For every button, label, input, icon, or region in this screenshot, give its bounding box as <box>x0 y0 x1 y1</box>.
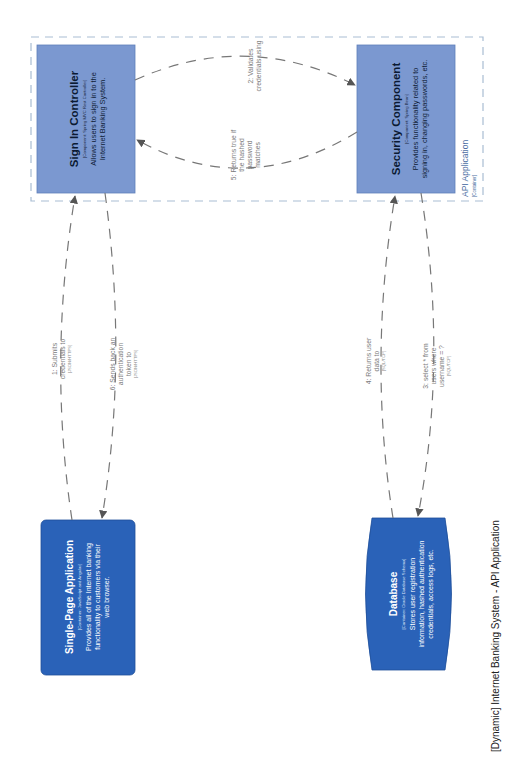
svg-text:[JSON/HTTPS]: [JSON/HTTPS] <box>133 350 138 378</box>
svg-text:[JSON/HTTPS]: [JSON/HTTPS] <box>67 345 72 373</box>
security-component-title: Security Component <box>390 63 402 176</box>
security-component-description-1: Provides functionality related to <box>411 68 420 171</box>
security-component-technology: [Component: Spring Bean] <box>404 94 409 143</box>
svg-text:authentication: authentication <box>117 343 124 386</box>
svg-text:data to: data to <box>373 350 380 371</box>
svg-text:username = ?: username = ? <box>438 345 445 387</box>
database-node[interactable]: Database [Container: Oracle Database Sch… <box>366 518 452 670</box>
database-description-1: Stores user registration <box>409 558 417 630</box>
spa-description-2: functionality to customers via their <box>94 544 102 650</box>
svg-text:[SQL/TCP]: [SQL/TCP] <box>381 351 386 371</box>
edge-2-validates-credentials <box>135 56 355 85</box>
dynamic-diagram: API Application [Container] Sign In Cont… <box>0 0 515 761</box>
svg-text:credentials using: credentials using <box>255 40 263 91</box>
svg-text:2: Validates: 2: Validates <box>247 48 254 84</box>
boundary-label: API Application <box>460 140 470 197</box>
single-page-application-node[interactable]: Single-Page Application [Container: Java… <box>41 520 135 675</box>
label-3: 3: select * from users where username = … <box>422 343 451 389</box>
svg-text:matches: matches <box>254 142 261 168</box>
svg-text:3: select * from: 3: select * from <box>422 343 429 389</box>
svg-text:6: Sends back an: 6: Sends back an <box>109 338 116 391</box>
sign-in-controller-title: Sign In Controller <box>68 70 80 167</box>
sign-in-controller-node[interactable]: Sign In Controller [Component: Spring MV… <box>37 45 135 193</box>
label-4: 4: Returns user data to [SQL/TCP] <box>365 337 386 384</box>
svg-text:5: Returns true if: 5: Returns true if <box>230 130 237 180</box>
database-description-2: information, hashed authentication <box>418 540 425 647</box>
label-5: 5: Returns true if the hashed password m… <box>230 130 261 180</box>
label-2: 2: Validates credentials using <box>247 40 263 91</box>
spa-description-3: web browser. <box>103 576 110 618</box>
svg-text:[SQL/TCP]: [SQL/TCP] <box>446 356 451 376</box>
svg-text:4: Returns user: 4: Returns user <box>365 337 372 384</box>
database-title: Database <box>388 571 399 616</box>
label-6: 6: Sends back an authentication token to… <box>109 338 138 391</box>
security-component-node[interactable]: Security Component [Component: Spring Be… <box>357 45 455 193</box>
sign-in-controller-description-1: Allows users to sign in to the <box>89 72 98 166</box>
boundary-type: [Container] <box>472 175 477 197</box>
label-1: 1: Submits credentials to [JSON/HTTPS] <box>51 339 72 380</box>
database-description-3: credentials, access logs, etc. <box>427 549 435 639</box>
spa-technology: [Container: JavaScript and Angular] <box>77 564 82 630</box>
sign-in-controller-technology: [Component: Spring MVC Rest Controller] <box>82 80 87 158</box>
spa-description-1: Provides all of the Internet banking <box>85 543 93 651</box>
svg-text:1: Submits: 1: Submits <box>51 342 58 375</box>
svg-text:password: password <box>246 140 254 169</box>
sign-in-controller-description-2: Internet Banking System. <box>98 78 107 161</box>
svg-text:token to: token to <box>125 352 132 376</box>
svg-text:the hashed: the hashed <box>238 138 245 172</box>
svg-text:credentials to: credentials to <box>59 339 66 380</box>
svg-text:users where: users where <box>430 347 437 384</box>
spa-title: Single-Page Application <box>64 540 75 654</box>
diagram-title: [Dynamic] Internet Banking System - API … <box>490 520 501 752</box>
database-technology: [Container: Oracle Database Schema] <box>401 559 406 630</box>
security-component-description-2: signing in, changing passwords, etc. <box>420 60 429 179</box>
